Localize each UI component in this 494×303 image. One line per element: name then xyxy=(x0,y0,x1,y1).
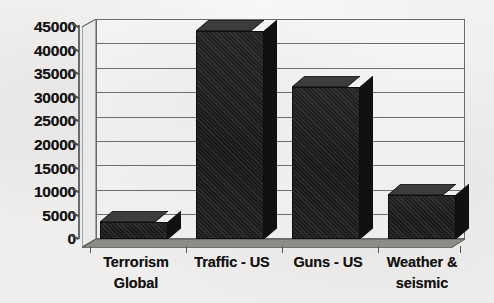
x-label-terrorism-global: Terrorism Global xyxy=(88,252,184,293)
bar-front-face xyxy=(196,31,264,239)
bar-chart: 45000 40000 35000 30000 25000 20000 1500… xyxy=(0,0,494,303)
bar-front-face xyxy=(100,222,168,239)
y-tick-label-5000: 5000 xyxy=(0,208,76,224)
bar-weather-seismic xyxy=(388,195,456,239)
bar-side-face xyxy=(168,211,181,239)
bar-side-face xyxy=(264,20,277,239)
bar-terrorism-global xyxy=(100,222,168,239)
bar-top-face xyxy=(292,76,360,87)
x-label-weather-seismic: Weather & seismic xyxy=(372,252,472,293)
bar-top-face xyxy=(100,211,168,222)
x-label-line1: Guns - US xyxy=(293,254,362,270)
bar-series xyxy=(82,19,465,248)
y-tick-label-45000: 45000 xyxy=(0,19,76,35)
bar-front-face xyxy=(292,87,360,239)
bar-side-face xyxy=(456,184,469,239)
bar-side-face xyxy=(360,76,373,239)
y-tick-label-25000: 25000 xyxy=(0,114,76,130)
y-tick-label-0: 0 xyxy=(0,232,76,248)
y-tick-label-20000: 20000 xyxy=(0,137,76,153)
y-tick-label-10000: 10000 xyxy=(0,184,76,200)
x-label-line2: seismic xyxy=(372,273,472,294)
bar-front-face xyxy=(388,195,456,239)
y-axis: 45000 40000 35000 30000 25000 20000 1500… xyxy=(0,0,82,303)
x-axis: Terrorism Global Traffic - US Guns - US … xyxy=(82,252,465,303)
x-label-guns-us: Guns - US xyxy=(280,252,376,273)
y-tick-label-35000: 35000 xyxy=(0,66,76,82)
x-label-traffic-us: Traffic - US xyxy=(184,252,280,273)
x-label-line1: Traffic - US xyxy=(194,254,269,270)
x-label-line1: Weather & xyxy=(387,254,458,270)
y-tick-label-15000: 15000 xyxy=(0,161,76,177)
x-label-line1: Terrorism xyxy=(103,254,169,270)
y-tick-label-40000: 40000 xyxy=(0,43,76,59)
bar-top-face xyxy=(196,20,264,31)
bar-top-face xyxy=(388,184,456,195)
bar-traffic-us xyxy=(196,31,264,239)
bar-guns-us xyxy=(292,87,360,239)
x-label-line2: Global xyxy=(88,273,184,294)
y-tick-label-30000: 30000 xyxy=(0,90,76,106)
